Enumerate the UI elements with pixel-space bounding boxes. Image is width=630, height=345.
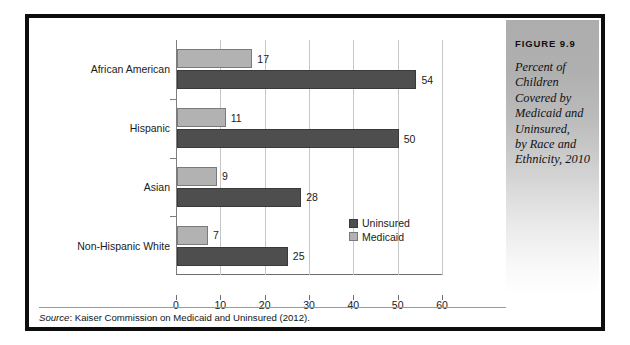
bar-value-label: 28 bbox=[306, 192, 318, 203]
bar-uninsured bbox=[177, 129, 399, 148]
figure-caption-text: Percent ofChildrenCovered byMedicaid and… bbox=[515, 60, 591, 168]
bar-medicaid bbox=[177, 108, 226, 127]
caption-line: Medicaid and bbox=[515, 106, 591, 121]
bar-value-label: 9 bbox=[222, 171, 228, 182]
x-tick-label: 60 bbox=[436, 300, 448, 311]
caption-line: by Race and bbox=[515, 137, 591, 152]
category-label: Hispanic bbox=[130, 123, 170, 134]
caption-line: Children bbox=[515, 75, 591, 90]
legend-label: Medicaid bbox=[362, 232, 404, 243]
chart-region: African AmericanHispanicAsianNon-Hispani… bbox=[31, 20, 535, 325]
x-tick-label: 0 bbox=[173, 300, 179, 311]
bar-medicaid bbox=[177, 226, 208, 245]
category-label: Non-Hispanic White bbox=[77, 241, 170, 252]
legend-item: Medicaid bbox=[349, 232, 410, 243]
x-tick-label: 30 bbox=[303, 300, 315, 311]
bar-uninsured bbox=[177, 188, 301, 207]
source-text: : Kaiser Commission on Medicaid and Unin… bbox=[69, 312, 310, 323]
category-label: African American bbox=[91, 64, 170, 75]
legend-item: Uninsured bbox=[349, 218, 410, 229]
source-prefix: Source bbox=[39, 312, 69, 323]
category-label: Asian bbox=[144, 182, 170, 193]
bar-value-label: 11 bbox=[231, 113, 242, 124]
legend-swatch-medicaid bbox=[349, 232, 358, 241]
figure-caption-panel: FIGURE 9.9 Percent ofChildrenCovered byM… bbox=[506, 20, 599, 325]
source-note: Source: Kaiser Commission on Medicaid an… bbox=[39, 313, 310, 323]
x-tick-label: 10 bbox=[214, 300, 226, 311]
gridline bbox=[442, 40, 443, 275]
caption-line: Ethnicity, 2010 bbox=[515, 152, 591, 167]
legend-label: Uninsured bbox=[362, 218, 410, 229]
x-tick-label: 50 bbox=[392, 300, 404, 311]
bar-medicaid bbox=[177, 49, 252, 68]
source-divider bbox=[39, 307, 509, 308]
caption-line: Covered by bbox=[515, 91, 591, 106]
bar-uninsured bbox=[177, 70, 416, 89]
bar-value-label: 7 bbox=[213, 230, 219, 241]
bar-value-label: 25 bbox=[293, 251, 305, 262]
category-axis-labels: African AmericanHispanicAsianNon-Hispani… bbox=[31, 40, 170, 275]
caption-line: Percent of bbox=[515, 60, 591, 75]
chart-legend: UninsuredMedicaid bbox=[349, 218, 410, 245]
figure-number-label: FIGURE 9.9 bbox=[515, 38, 591, 49]
bar-medicaid bbox=[177, 167, 217, 186]
bar-value-label: 54 bbox=[421, 75, 433, 86]
bar-value-label: 17 bbox=[257, 54, 269, 65]
figure-inner: African AmericanHispanicAsianNon-Hispani… bbox=[29, 18, 601, 327]
category-tick bbox=[170, 99, 176, 100]
caption-line: Uninsured, bbox=[515, 122, 591, 137]
category-tick bbox=[170, 216, 176, 217]
x-tick-label: 40 bbox=[347, 300, 359, 311]
bar-uninsured bbox=[177, 247, 288, 266]
category-tick bbox=[170, 158, 176, 159]
legend-swatch-uninsured bbox=[349, 219, 358, 228]
bar-value-label: 50 bbox=[404, 134, 416, 145]
x-tick-label: 20 bbox=[259, 300, 271, 311]
figure-frame: African AmericanHispanicAsianNon-Hispani… bbox=[25, 14, 605, 331]
